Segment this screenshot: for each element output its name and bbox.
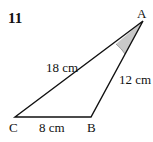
vertex-label-c: C: [9, 121, 18, 134]
side-label-ab: 12 cm: [119, 73, 151, 86]
side-label-ca: 18 cm: [46, 61, 78, 74]
problem-number: 11: [8, 12, 22, 25]
triangle-abc: [15, 21, 143, 117]
side-label-cb: 8 cm: [39, 121, 65, 134]
vertex-label-b: B: [87, 121, 96, 134]
vertex-label-a: A: [137, 7, 146, 20]
